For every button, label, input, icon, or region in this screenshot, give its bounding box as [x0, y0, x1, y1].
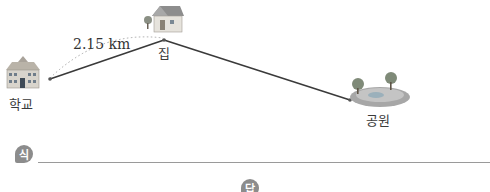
route-diagram — [0, 0, 490, 192]
house-label: 집 — [158, 43, 170, 62]
distance-label: 2.15 km — [73, 36, 130, 52]
route-house-park — [164, 40, 350, 100]
park-icon — [350, 72, 410, 107]
answer-badge: 답 — [241, 179, 259, 192]
formula-badge: 식 — [15, 145, 33, 163]
house-point — [162, 38, 166, 42]
school-label: 학교 — [9, 94, 33, 113]
school-building-icon — [6, 56, 40, 88]
house-icon — [144, 6, 184, 32]
park-label: 공원 — [366, 110, 390, 129]
school-point — [48, 77, 52, 81]
formula-answer-line[interactable] — [38, 162, 490, 163]
